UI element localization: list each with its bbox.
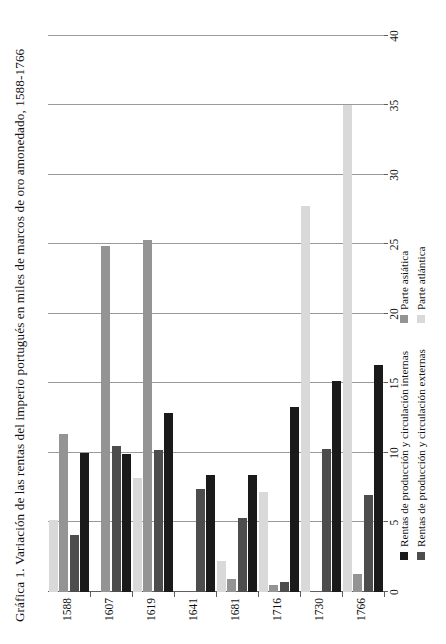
value-axis-tick-label: 30 bbox=[388, 169, 400, 181]
bar[interactable] bbox=[364, 495, 373, 592]
bar[interactable] bbox=[269, 585, 278, 592]
bar[interactable] bbox=[353, 574, 362, 592]
category-axis-tick bbox=[384, 592, 385, 597]
legend-swatch-icon bbox=[400, 552, 408, 560]
category-axis-label: 1619 bbox=[145, 598, 157, 634]
bar-group: 1681 bbox=[216, 36, 258, 592]
category-axis-tick bbox=[132, 592, 133, 597]
bar[interactable] bbox=[101, 246, 110, 592]
bar[interactable] bbox=[154, 450, 163, 592]
bar[interactable] bbox=[122, 454, 131, 592]
bar[interactable] bbox=[332, 381, 341, 592]
legend-swatch-icon bbox=[417, 552, 425, 560]
bar[interactable] bbox=[248, 475, 257, 592]
bar[interactable] bbox=[374, 365, 383, 592]
bar-group: 1641 bbox=[174, 36, 216, 592]
bar[interactable] bbox=[143, 240, 152, 592]
bar[interactable] bbox=[343, 106, 352, 593]
bar[interactable] bbox=[133, 478, 142, 592]
legend-label: Parte atlántica bbox=[415, 246, 427, 310]
category-axis-label: 1607 bbox=[103, 598, 115, 634]
category-axis-tick bbox=[300, 592, 301, 597]
bar-group: 1766 bbox=[342, 36, 384, 592]
bar[interactable] bbox=[259, 492, 268, 592]
bar[interactable] bbox=[80, 453, 89, 592]
legend-column: Rentas de producción y circulación inter… bbox=[398, 349, 427, 560]
legend-swatch-icon bbox=[400, 315, 408, 323]
legend-label: Rentas de producción y circulación exter… bbox=[415, 349, 427, 547]
category-axis-tick bbox=[90, 592, 91, 597]
legend-swatch-icon bbox=[417, 315, 425, 323]
category-axis-label: 1730 bbox=[313, 598, 325, 634]
category-axis-label: 1716 bbox=[271, 598, 283, 634]
value-axis-tick-label: 40 bbox=[388, 30, 400, 42]
bar-group: 1588 bbox=[48, 36, 90, 592]
legend-label: Rentas de producción y circulación inter… bbox=[398, 351, 410, 547]
bar-group: 1730 bbox=[300, 36, 342, 592]
bar[interactable] bbox=[59, 434, 68, 592]
legend-item[interactable]: Rentas de producción y circulación inter… bbox=[398, 349, 410, 560]
category-axis-label: 1766 bbox=[355, 598, 367, 634]
legend-label: Parte asiática bbox=[398, 251, 410, 310]
page-title: Gráfica 1. Variación de las rentas del i… bbox=[12, 49, 28, 622]
bar[interactable] bbox=[112, 446, 121, 592]
bar[interactable] bbox=[196, 489, 205, 592]
bar[interactable] bbox=[301, 206, 310, 592]
value-axis-tick-label: 0 bbox=[388, 589, 400, 595]
legend-column: Parte asiáticaParte atlántica bbox=[398, 246, 427, 323]
value-axis-tick-label: 35 bbox=[388, 100, 400, 112]
category-axis-label: 1641 bbox=[187, 598, 199, 634]
legend-item[interactable]: Parte asiática bbox=[398, 246, 410, 323]
category-axis-tick bbox=[258, 592, 259, 597]
bar[interactable] bbox=[238, 518, 247, 592]
bar[interactable] bbox=[217, 561, 226, 592]
bar-group: 1716 bbox=[258, 36, 300, 592]
bar-group: 1619 bbox=[132, 36, 174, 592]
legend-item[interactable]: Rentas de producción y circulación exter… bbox=[415, 349, 427, 560]
bar[interactable] bbox=[227, 580, 236, 593]
figure: Gráfica 1. Variación de las rentas del i… bbox=[0, 0, 446, 644]
bar[interactable] bbox=[70, 535, 79, 592]
category-axis-label: 1681 bbox=[229, 598, 241, 634]
category-axis-tick bbox=[174, 592, 175, 597]
bar[interactable] bbox=[280, 582, 289, 592]
category-axis-tick bbox=[342, 592, 343, 597]
bar[interactable] bbox=[290, 407, 299, 592]
chart-plot-area: 0510152025303540158816071619164116811716… bbox=[48, 36, 384, 592]
category-axis-tick bbox=[216, 592, 217, 597]
legend-item[interactable]: Parte atlántica bbox=[415, 246, 427, 323]
category-axis-label: 1588 bbox=[61, 598, 73, 634]
bar-group: 1607 bbox=[90, 36, 132, 592]
bar[interactable] bbox=[49, 520, 58, 592]
bar[interactable] bbox=[206, 475, 215, 592]
bar[interactable] bbox=[322, 449, 331, 592]
bar[interactable] bbox=[164, 413, 173, 592]
chart-legend: Rentas de producción y circulación inter… bbox=[398, 246, 427, 560]
